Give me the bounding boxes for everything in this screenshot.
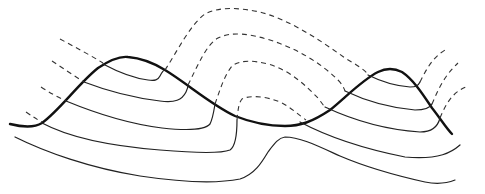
dashed-line-2 bbox=[52, 61, 84, 82]
fold-diagram bbox=[0, 0, 485, 194]
layer-line-8 bbox=[325, 107, 440, 132]
dashed-arch-1 bbox=[165, 9, 368, 75]
layer-line-1 bbox=[103, 64, 165, 80]
dashed-line-7 bbox=[440, 86, 468, 118]
layer-line-3 bbox=[66, 101, 215, 130]
dashed-line-4 bbox=[26, 112, 42, 122]
layer-line-4 bbox=[42, 120, 237, 153]
layer-line-7 bbox=[345, 91, 432, 110]
dashed-line-5 bbox=[420, 50, 445, 82]
dashed-line-1 bbox=[60, 39, 103, 63]
dashed-arch-4 bbox=[237, 97, 306, 120]
layer-line-2 bbox=[84, 82, 188, 102]
dashed-line-6 bbox=[432, 63, 458, 104]
layer-line-5 bbox=[15, 137, 455, 183]
layer-line-9 bbox=[300, 122, 460, 158]
dashed-line-3 bbox=[41, 87, 66, 101]
dashed-arch-2 bbox=[188, 34, 345, 91]
surface-profile-line bbox=[10, 57, 452, 134]
dashed-arch-3 bbox=[215, 61, 325, 107]
